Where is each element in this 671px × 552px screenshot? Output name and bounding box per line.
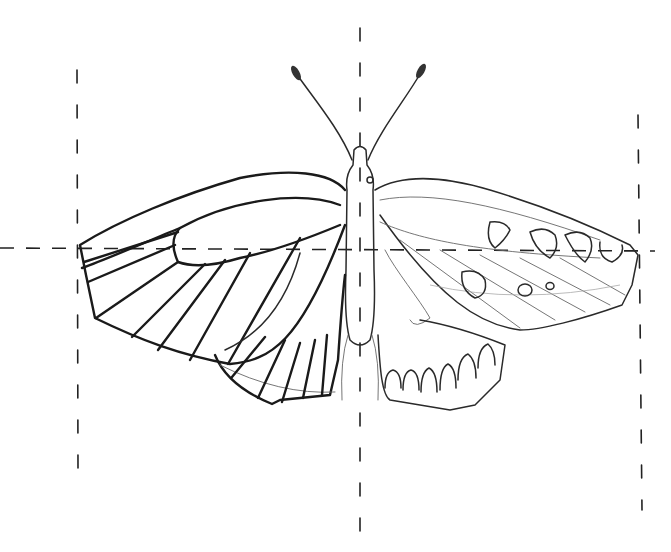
butterfly-sketch bbox=[0, 0, 671, 552]
vein bbox=[258, 340, 285, 398]
left-leg-line bbox=[342, 335, 348, 400]
drawing-svg bbox=[0, 0, 671, 552]
eyespot-arch bbox=[440, 364, 456, 390]
vein bbox=[96, 262, 178, 318]
wing-eyespot bbox=[546, 283, 554, 290]
vein bbox=[158, 260, 225, 350]
eye bbox=[367, 177, 373, 183]
eyespot-arch bbox=[403, 370, 419, 390]
vein bbox=[228, 238, 300, 364]
right-forewing-submarginal bbox=[430, 285, 620, 295]
wing-eyespot bbox=[518, 284, 532, 296]
vein bbox=[440, 250, 555, 320]
right-leg-line bbox=[372, 335, 378, 400]
right-wing bbox=[375, 179, 638, 410]
eyespot-arch bbox=[478, 344, 495, 368]
eyespot-arch bbox=[421, 368, 437, 392]
antennae bbox=[289, 62, 428, 160]
right-antenna-club bbox=[414, 62, 428, 79]
right-guide-line bbox=[638, 115, 642, 510]
right-forewing-outline bbox=[375, 179, 638, 330]
vein bbox=[322, 335, 327, 395]
eyespot-arch bbox=[458, 354, 476, 380]
right-inner-edge bbox=[385, 250, 430, 325]
wing-marking bbox=[488, 222, 510, 248]
right-hindwing-outline bbox=[378, 320, 505, 410]
left-antenna bbox=[298, 76, 352, 160]
vein bbox=[303, 340, 315, 398]
vein bbox=[282, 343, 300, 402]
vein bbox=[84, 232, 178, 262]
left-wing bbox=[80, 173, 345, 404]
left-forewing-cell bbox=[173, 225, 340, 265]
vein bbox=[400, 240, 520, 328]
eyespot-arch bbox=[385, 370, 401, 388]
vein bbox=[520, 258, 610, 305]
left-forewing-costa-vein bbox=[82, 198, 340, 268]
wing-marking bbox=[600, 242, 623, 262]
hindwing-eyespots bbox=[385, 344, 495, 392]
left-guide-line bbox=[77, 70, 78, 470]
right-antenna bbox=[368, 74, 420, 160]
horizontal-guide-line bbox=[0, 248, 655, 251]
construction-guides bbox=[0, 28, 655, 545]
wing-marking bbox=[565, 232, 592, 262]
vein bbox=[88, 245, 175, 282]
